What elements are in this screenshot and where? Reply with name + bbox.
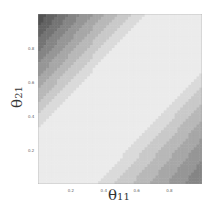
x-tick: 0.4 (101, 188, 107, 193)
x-tick: 0.8 (166, 188, 172, 193)
x-tick: 0.6 (133, 188, 139, 193)
y-tick: 0.8 (28, 46, 34, 51)
x-tick: 0.2 (68, 188, 74, 193)
contour-plot (38, 14, 202, 184)
y-tick: 0.6 (28, 80, 34, 85)
y-tick: 0.2 (28, 148, 34, 153)
y-tick: 0.4 (28, 114, 34, 119)
xlabel: θ11 (108, 186, 130, 204)
ylabel: θ21 (8, 86, 26, 108)
